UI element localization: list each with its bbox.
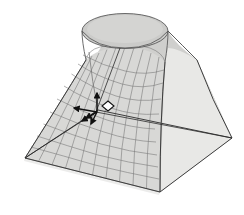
figure-viewport: Shaded 3D surface mesh of a lofted solid… xyxy=(0,0,244,215)
3d-scene xyxy=(0,0,244,215)
top-disc-highlight xyxy=(87,15,163,43)
top-disc-group xyxy=(82,14,168,49)
